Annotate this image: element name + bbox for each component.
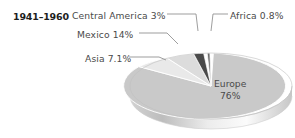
- leader-line-central-america: [167, 14, 198, 31]
- leader-line-africa: [211, 14, 228, 31]
- slice-label-asia-value: 7.1%: [108, 53, 132, 64]
- slice-label-africa-name: Africa: [230, 10, 257, 21]
- slice-label-africa: Africa0.8%: [230, 10, 284, 21]
- slice-label-europe: Europe 76%: [214, 78, 246, 101]
- slice-label-asia: Asia7.1%: [85, 53, 131, 64]
- pie-chart-figure: 1941–1960: [0, 0, 295, 138]
- slice-label-central-america-value: 3%: [151, 10, 166, 21]
- slice-label-central-america-name: Central America: [72, 10, 148, 21]
- slice-label-asia-name: Asia: [85, 53, 105, 64]
- slice-label-central-america: Central America3%: [72, 10, 166, 21]
- slice-label-europe-value: 76%: [214, 90, 246, 102]
- slice-label-mexico: Mexico14%: [77, 29, 133, 40]
- leader-line-mexico: [139, 33, 178, 44]
- slice-label-mexico-name: Mexico: [77, 29, 110, 40]
- slice-label-europe-name: Europe: [214, 78, 246, 90]
- slice-label-africa-value: 0.8%: [260, 10, 284, 21]
- slice-label-mexico-value: 14%: [113, 29, 134, 40]
- pie-top-face: [124, 53, 292, 119]
